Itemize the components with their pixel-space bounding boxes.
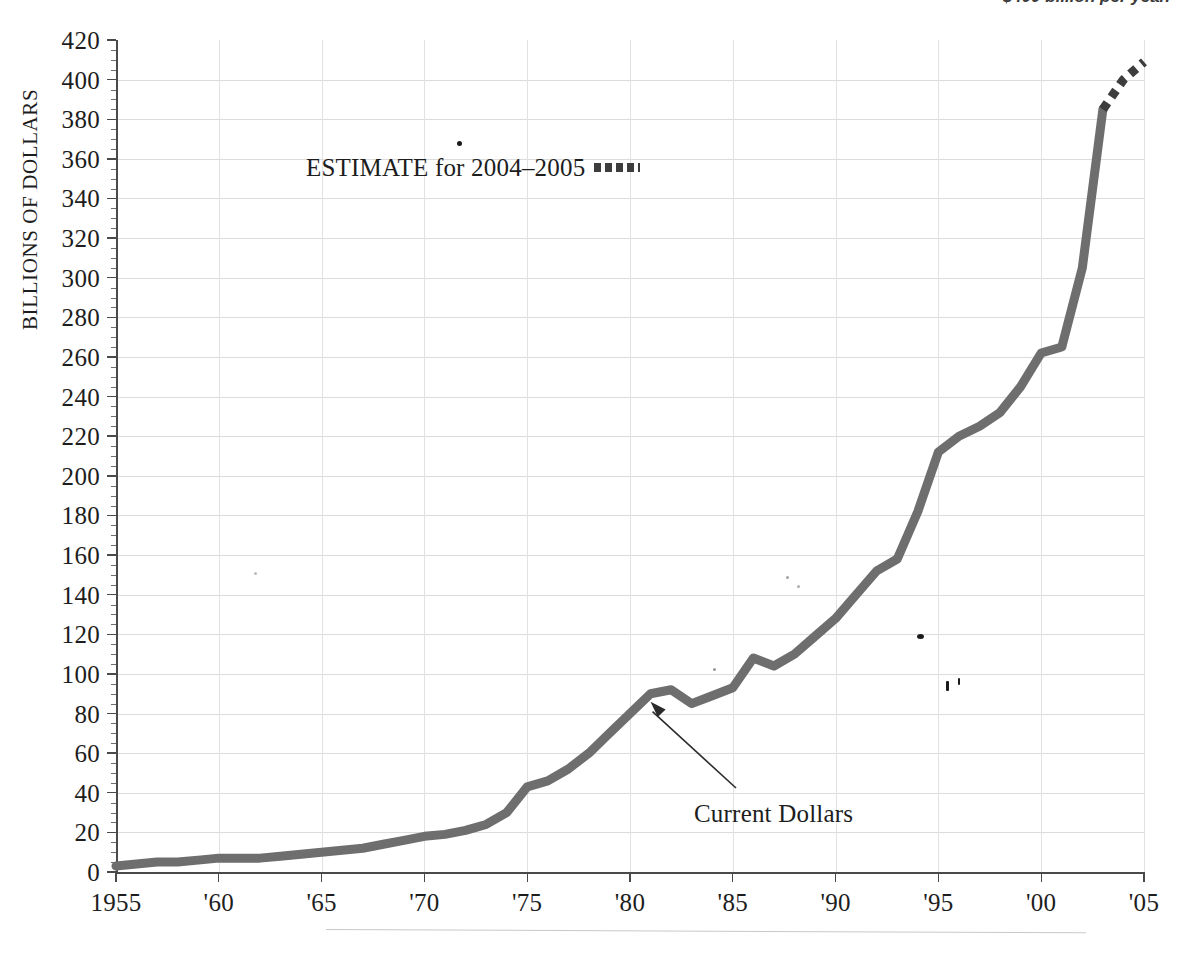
x-tick-label: '90 [820,890,850,915]
series-line-current-dollars [116,109,1103,866]
x-tick [321,872,322,882]
scan-speck [254,572,257,575]
y-tick-label: 0 [30,860,100,885]
scan-speck [457,141,462,146]
scan-speck [713,668,716,671]
y-tick [107,515,116,516]
y-tick [107,435,116,436]
y-tick-label: 120 [30,622,100,647]
top-caption-fragment: $400 billion per year. [0,0,1188,13]
y-tick [107,277,116,278]
y-tick-label: 180 [30,503,100,528]
chart-canvas: $400 billion per year. BILLIONS OF DOLLA… [0,0,1188,953]
y-tick [107,198,116,199]
y-tick-label: 320 [30,226,100,251]
y-tick-label: 100 [30,662,100,687]
x-tick [527,872,528,882]
x-tick [938,872,939,882]
legend-label-estimate: ESTIMATE for 2004–2005 [306,154,585,182]
chart-legend: ESTIMATE for 2004–2005 [306,154,640,182]
x-tick [835,872,836,882]
y-tick-label: 200 [30,464,100,489]
x-tick [1041,872,1042,882]
annotation-current-dollars: Current Dollars [694,800,853,828]
current-dollars-arrow [651,702,736,788]
x-tick-label: '65 [306,890,336,915]
y-tick [107,119,116,120]
x-tick [1143,872,1144,882]
x-tick-label: 1955 [90,890,141,915]
x-tick [115,872,116,882]
legend-swatch-dashed-icon [594,163,640,172]
x-tick-label: '70 [409,890,439,915]
top-caption-text: $400 billion per year. [1003,0,1170,7]
page-footer-rule [326,929,1086,933]
y-tick-label: 280 [30,305,100,330]
x-tick-label: '60 [204,890,234,915]
y-tick [107,792,116,793]
y-tick [107,158,116,159]
y-tick [107,317,116,318]
x-tick-label: '80 [615,890,645,915]
y-tick [107,475,116,476]
y-tick [107,39,116,40]
y-tick [107,713,116,714]
y-tick-label: 300 [30,266,100,291]
y-tick-label: 220 [30,424,100,449]
y-tick-label: 420 [30,28,100,53]
y-tick [107,356,116,357]
scan-speck [946,681,949,691]
plot-area: 0204060801001201401601802002202402602803… [116,40,1144,872]
x-tick [732,872,733,882]
y-tick-label: 140 [30,583,100,608]
x-tick [629,872,630,882]
y-tick-label: 240 [30,385,100,410]
y-tick-label: 360 [30,147,100,172]
x-tick-label: '95 [923,890,953,915]
x-tick [218,872,219,882]
series-line-estimate [1103,62,1144,110]
scan-speck [797,585,800,588]
x-tick [424,872,425,882]
x-tick-label: '85 [718,890,748,915]
y-tick [107,237,116,238]
y-tick-label: 160 [30,543,100,568]
y-tick [107,673,116,674]
y-tick [107,554,116,555]
y-tick-label: 60 [30,741,100,766]
scan-speck [917,634,924,639]
scan-speck [786,576,789,579]
y-tick [107,594,116,595]
y-tick-label: 380 [30,107,100,132]
x-tick-label: '00 [1026,890,1056,915]
x-tick-label: '75 [512,890,542,915]
y-tick-label: 40 [30,781,100,806]
y-tick-label: 20 [30,820,100,845]
y-tick [107,396,116,397]
gridline [1144,40,1145,872]
y-tick [107,79,116,80]
y-tick [107,752,116,753]
y-tick [107,634,116,635]
x-tick-label: '05 [1129,890,1159,915]
y-tick [107,832,116,833]
y-tick-label: 260 [30,345,100,370]
y-tick-label: 80 [30,702,100,727]
y-tick-label: 340 [30,186,100,211]
y-tick-label: 400 [30,68,100,93]
scan-speck [958,678,960,685]
